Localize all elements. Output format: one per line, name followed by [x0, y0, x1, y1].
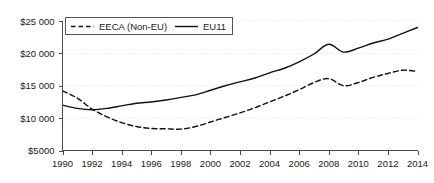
x-axis-tick-label: 2010 — [348, 158, 369, 169]
chart-legend: EECA (Non-EU) EU11 — [66, 18, 233, 35]
legend-label-eeca: EECA (Non-EU) — [99, 21, 167, 32]
x-axis-tick-label: 1992 — [82, 158, 103, 169]
x-axis-tick-label: 1998 — [170, 158, 191, 169]
x-axis-tick-label: 2008 — [318, 158, 339, 169]
gridlines-group — [63, 21, 418, 118]
y-axis-ticks: $25 000$20 000$15 000$10 000$5000 — [20, 16, 62, 157]
series-group — [63, 27, 418, 129]
y-axis-tick-label: $20 000 — [20, 48, 54, 59]
x-axis-ticks: 1990199219941996199820002002200420062008… — [52, 151, 428, 169]
y-axis-tick-label: $10 000 — [20, 113, 54, 124]
y-axis-tick-label: $15 000 — [20, 80, 54, 91]
legend-label-eu11: EU11 — [203, 21, 226, 32]
x-axis-tick-label: 1996 — [141, 158, 162, 169]
chart-canvas: $25 000$20 000$15 000$10 000$5000 199019… — [0, 0, 434, 183]
y-axis-tick-label: $5000 — [28, 145, 54, 156]
x-axis-tick-label: 2004 — [259, 158, 280, 169]
x-axis-tick-label: 2012 — [377, 158, 398, 169]
line-chart: $25 000$20 000$15 000$10 000$5000 199019… — [0, 0, 434, 183]
x-axis-tick-label: 1990 — [52, 158, 73, 169]
x-axis-tick-label: 1994 — [111, 158, 132, 169]
x-axis-tick-label: 2006 — [289, 158, 310, 169]
series-line-eu11 — [63, 27, 418, 109]
y-axis-tick-label: $25 000 — [20, 16, 54, 27]
x-axis-tick-label: 2002 — [229, 158, 250, 169]
x-axis-tick-label: 2014 — [407, 158, 428, 169]
x-axis-tick-label: 2000 — [200, 158, 221, 169]
series-line-eeca-non-eu — [63, 70, 418, 129]
